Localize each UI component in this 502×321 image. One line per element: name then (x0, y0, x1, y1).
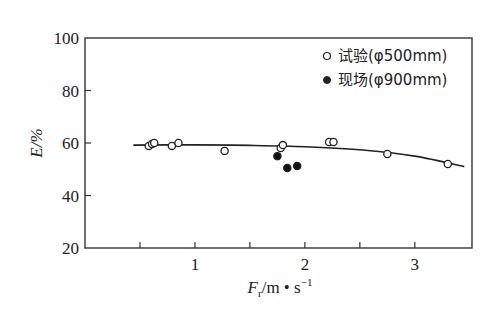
legend-open-circle-icon (324, 53, 331, 60)
x-axis-label-rest: /m • s (262, 278, 301, 297)
chart: 20406080100 123 E/% Fr/m • s−1 试验(φ500mm… (0, 0, 502, 321)
open-circle-marker-icon (444, 160, 451, 167)
plot-frame (85, 38, 472, 248)
x-axis-label-main: F (247, 278, 259, 297)
open-circle-marker-icon (151, 139, 158, 146)
x-axis-ticks: 123 (140, 242, 419, 274)
plot-area (85, 38, 472, 248)
y-tick-label: 40 (62, 187, 79, 206)
y-axis-label: E/% (27, 128, 46, 158)
filled-circle-marker-icon (284, 164, 291, 171)
open-circle-marker-icon (175, 139, 182, 146)
x-axis-label: Fr/m • s−1 (247, 276, 313, 299)
open-circle-marker-icon (279, 142, 286, 149)
legend-label-field: 现场(φ900mm) (338, 71, 447, 89)
y-tick-label: 80 (62, 82, 79, 101)
legend-filled-circle-icon (324, 77, 331, 84)
filled-circle-marker-icon (274, 153, 281, 160)
open-circle-marker-icon (384, 150, 391, 157)
x-tick-label: 1 (191, 255, 200, 274)
open-circle-marker-icon (330, 138, 337, 145)
filled-circle-marker-icon (294, 163, 301, 170)
open-circle-marker-icon (221, 147, 228, 154)
legend: 试验(φ500mm) 现场(φ900mm) (324, 47, 448, 89)
x-tick-label: 2 (301, 255, 310, 274)
x-tick-label: 3 (411, 255, 420, 274)
legend-label-test: 试验(φ500mm) (338, 47, 447, 65)
y-tick-label: 60 (62, 134, 79, 153)
x-axis-label-sup: −1 (301, 276, 313, 288)
y-tick-label: 20 (62, 239, 79, 258)
y-tick-label: 100 (54, 29, 80, 48)
